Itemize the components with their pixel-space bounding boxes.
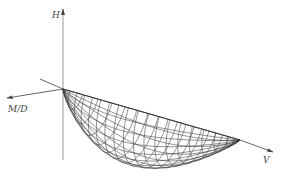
surface-meridian: [63, 89, 240, 147]
interaction-surface-diagram: H M/D V: [0, 0, 281, 179]
md-axis-label: M/D: [7, 104, 27, 114]
surface-meridian: [63, 89, 240, 168]
v-axis: [240, 140, 273, 152]
surface-meridian: [63, 89, 240, 154]
v-axis-label: V: [263, 155, 271, 165]
md-axis: [7, 89, 63, 98]
surface-mesh: [63, 89, 240, 168]
md-axis-back: [40, 79, 63, 89]
surface-meridian: [63, 89, 240, 166]
h-axis-label: H: [51, 10, 60, 20]
surface-meridian: [63, 89, 240, 168]
